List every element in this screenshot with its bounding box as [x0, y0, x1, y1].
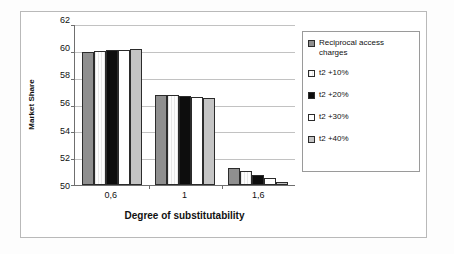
bar — [228, 168, 240, 185]
legend-item[interactable]: t2 +30% — [308, 112, 414, 122]
legend-swatch-icon — [308, 40, 315, 47]
x-axis-tick — [222, 185, 223, 189]
plot-area — [74, 25, 295, 186]
chart-legend: Reciprocal access chargest2 +10%t2 +20%t… — [302, 31, 420, 172]
x-tick-label: 0,6 — [74, 190, 148, 204]
legend-item[interactable]: t2 +20% — [308, 90, 414, 100]
bar — [252, 175, 264, 185]
y-tick-label: 58 — [60, 71, 70, 80]
bar — [240, 171, 252, 185]
chart-page: Market Share 62 60 58 56 54 52 50 — [0, 0, 454, 254]
bar-group-1 — [148, 25, 221, 185]
legend-swatch-icon — [308, 136, 315, 143]
y-axis-tick — [71, 185, 75, 186]
bar-chart: Market Share 62 60 58 56 54 52 50 — [0, 0, 454, 254]
x-axis-tick-labels: 0,6 1 1,6 — [74, 190, 295, 204]
bar — [264, 178, 276, 185]
bar — [106, 50, 118, 185]
bar — [94, 51, 106, 185]
legend-item[interactable]: Reciprocal access charges — [308, 38, 414, 58]
bar — [191, 97, 203, 185]
bar — [155, 95, 167, 185]
x-tick-label: 1,6 — [221, 190, 295, 204]
y-tick-label: 50 — [60, 182, 70, 191]
bar-group-0 — [75, 25, 148, 185]
legend-item[interactable]: t2 +10% — [308, 68, 414, 78]
y-tick-label: 54 — [60, 126, 70, 135]
bar-group-2 — [222, 25, 295, 185]
y-axis-title: Market Share — [27, 60, 36, 150]
bar — [203, 98, 215, 185]
bar — [167, 95, 179, 185]
x-axis-tick — [149, 185, 150, 189]
legend-label: t2 +30% — [319, 112, 349, 122]
legend-swatch-icon — [308, 70, 315, 77]
x-axis-title: Degree of substitutability — [74, 210, 295, 221]
legend-item[interactable]: t2 +40% — [308, 134, 414, 144]
legend-label: t2 +20% — [319, 90, 349, 100]
bar — [276, 182, 288, 185]
legend-label: t2 +10% — [319, 68, 349, 78]
bar — [118, 50, 130, 185]
y-tick-label: 62 — [60, 16, 70, 25]
y-tick-label: 56 — [60, 99, 70, 108]
y-tick-label: 52 — [60, 154, 70, 163]
bar — [82, 52, 94, 185]
legend-label: t2 +40% — [319, 134, 349, 144]
x-tick-label: 1 — [148, 190, 222, 204]
y-axis-tick-labels: 62 60 58 56 54 52 50 — [44, 20, 70, 186]
legend-swatch-icon — [308, 114, 315, 121]
bar — [179, 96, 191, 185]
bar-groups — [75, 25, 295, 185]
bar — [130, 49, 142, 185]
y-tick-label: 60 — [60, 43, 70, 52]
legend-swatch-icon — [308, 92, 315, 99]
legend-label: Reciprocal access charges — [319, 38, 414, 58]
